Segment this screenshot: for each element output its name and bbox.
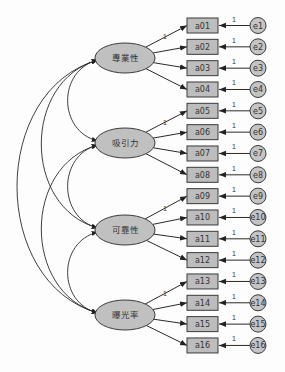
covariance-L1-L4 xyxy=(17,60,98,313)
loading-path-a04 xyxy=(146,69,187,90)
loading-path-a15 xyxy=(154,319,187,324)
loading-path-a12 xyxy=(147,240,187,260)
observed-variable-label: a06 xyxy=(195,128,210,137)
error-path-weight-label: 1 xyxy=(232,314,236,321)
latent-variable-label: 曝光率 xyxy=(112,310,139,320)
observed-variable-label: a09 xyxy=(195,192,210,201)
error-path-weight-label: 1 xyxy=(232,293,236,300)
error-term-label: e2 xyxy=(253,43,263,52)
error-path-weight-label: 1 xyxy=(232,229,236,236)
error-term-label: e6 xyxy=(253,128,263,137)
fixed-loading-label: 1 xyxy=(163,290,167,297)
loading-path-a11 xyxy=(154,234,187,239)
error-term-label: e14 xyxy=(250,299,265,308)
error-term-label: e10 xyxy=(250,213,265,222)
loading-path-a08 xyxy=(146,154,187,175)
observed-variable-label: a08 xyxy=(195,171,210,180)
error-term-label: e1 xyxy=(253,22,263,31)
covariance-L3-L4 xyxy=(68,232,98,313)
error-term-label: e5 xyxy=(253,107,263,116)
latent-variable-label: 可靠性 xyxy=(112,225,139,235)
loading-path-a07 xyxy=(153,148,187,154)
fixed-loading-label: 1 xyxy=(163,205,167,212)
covariance-layer xyxy=(17,60,98,313)
covariance-L1-L2 xyxy=(68,60,98,141)
error-term-label: e3 xyxy=(253,64,263,73)
observed-variable-label: a10 xyxy=(195,213,210,222)
fixed-loading-label: 1 xyxy=(163,33,167,40)
sem-path-diagram: 11111111111111111111 a01e1a02e2a03e3a04e… xyxy=(0,0,285,372)
latent-variable-label: 吸引力 xyxy=(112,138,139,148)
error-path-weight-label: 1 xyxy=(232,143,236,150)
observed-variable-label: a04 xyxy=(195,85,210,94)
loading-path-a03 xyxy=(154,63,187,68)
observed-variable-label: a12 xyxy=(195,256,210,265)
observed-variable-label: a11 xyxy=(195,235,210,244)
error-path-weight-label: 1 xyxy=(232,79,236,86)
error-path-weight-label: 1 xyxy=(232,186,236,193)
error-path-weight-label: 1 xyxy=(232,37,236,44)
error-term-label: e7 xyxy=(253,149,263,158)
observed-variable-label: a05 xyxy=(195,107,210,116)
observed-variable-label: a01 xyxy=(195,22,210,31)
observed-variable-label: a14 xyxy=(195,299,210,308)
observed-variable-label: a16 xyxy=(195,341,210,350)
observed-variable-label: a03 xyxy=(195,64,210,73)
error-term-label: e4 xyxy=(253,85,263,94)
error-term-label: e16 xyxy=(250,341,265,350)
loading-path-a02 xyxy=(153,47,187,53)
loading-path-a14 xyxy=(153,303,187,310)
error-term-label: e8 xyxy=(253,171,263,180)
latent-variable-label: 專業性 xyxy=(112,53,139,63)
covariance-L2-L4 xyxy=(41,145,98,313)
covariance-L1-L3 xyxy=(41,60,98,228)
error-term-label: e13 xyxy=(250,277,265,286)
fixed-loading-label: 1 xyxy=(163,119,167,126)
observed-variable-label: a02 xyxy=(195,43,210,52)
error-path-weight-label: 1 xyxy=(232,58,236,65)
error-path-weight-label: 1 xyxy=(232,250,236,257)
error-term-label: e15 xyxy=(250,320,265,329)
error-path-weight-label: 1 xyxy=(232,207,236,214)
error-term-label: e9 xyxy=(253,192,263,201)
error-path-weight-label: 1 xyxy=(232,271,236,278)
error-path-weight-label: 1 xyxy=(232,335,236,342)
observed-variable-label: a07 xyxy=(195,149,210,158)
loading-path-a10 xyxy=(153,217,187,224)
observed-variable-label: a13 xyxy=(195,277,210,286)
loading-path-a16 xyxy=(146,326,187,346)
error-term-label: e12 xyxy=(250,256,265,265)
error-term-label: e11 xyxy=(250,235,265,244)
error-path-weight-label: 1 xyxy=(232,122,236,129)
loading-path-a06 xyxy=(153,132,187,138)
error-path-weight-label: 1 xyxy=(232,165,236,172)
observed-variable-label: a15 xyxy=(195,320,210,329)
error-path-weight-label: 1 xyxy=(232,101,236,108)
error-path-weight-label: 1 xyxy=(232,16,236,23)
